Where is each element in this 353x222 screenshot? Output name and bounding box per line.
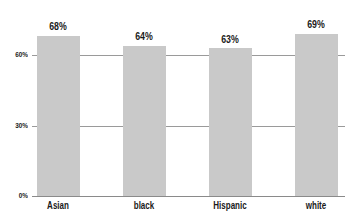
value-label-white: 69% xyxy=(292,18,340,30)
category-label-black: black xyxy=(116,200,172,212)
category-label-white: white xyxy=(288,200,344,212)
bar-hispanic xyxy=(209,48,252,196)
y-tick-60: 60% xyxy=(7,50,28,60)
bar-black xyxy=(123,46,166,196)
y-tick-0: 0% xyxy=(7,191,28,201)
value-label-hispanic: 63% xyxy=(206,33,254,45)
bar-chart: 60% 30% 0% 68% 64% 63% 69% Asian black H… xyxy=(0,0,353,222)
y-tick-30: 30% xyxy=(7,121,28,131)
category-label-hispanic: Hispanic xyxy=(202,200,258,212)
baseline-0 xyxy=(32,196,345,197)
category-label-asian: Asian xyxy=(30,200,86,212)
value-label-black: 64% xyxy=(120,30,168,42)
value-label-asian: 68% xyxy=(34,20,82,32)
bar-white xyxy=(295,34,338,196)
bar-asian xyxy=(37,36,80,196)
